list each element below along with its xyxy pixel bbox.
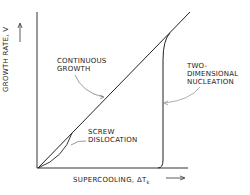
- two-dimensional-nucleation-curve: [158, 33, 170, 168]
- screw-dislocation-leader: [71, 141, 86, 145]
- diagram-plot: [0, 0, 250, 195]
- growth-rate-diagram: GROWTH RATE, V SUPERCOOLING, ΔTk CONTINU…: [0, 0, 250, 195]
- nucleation-leader: [165, 87, 200, 103]
- two-dimensional-nucleation-label: TWO- DIMENSIONAL NUCLEATION: [187, 62, 238, 86]
- continuous-growth-label: CONTINUOUS GROWTH: [57, 57, 106, 73]
- y-axis-label: GROWTH RATE, V: [2, 27, 10, 92]
- continuous-growth-line: [38, 12, 190, 168]
- screw-dislocation-label: SCREW DISLOCATION: [88, 128, 137, 144]
- continuous-growth-leader: [75, 75, 103, 97]
- x-axis-label: SUPERCOOLING, ΔTk: [73, 176, 150, 185]
